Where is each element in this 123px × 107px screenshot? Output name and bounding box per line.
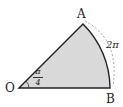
label-point-b: B: [106, 93, 115, 105]
label-arc-length: 2π: [106, 40, 119, 50]
label-point-a: A: [77, 8, 86, 20]
sector-figure: [0, 0, 123, 107]
angle-numerator: π: [33, 68, 43, 76]
label-angle: π 4: [33, 68, 43, 87]
angle-denominator: 4: [33, 79, 43, 87]
label-point-o: O: [5, 82, 15, 94]
